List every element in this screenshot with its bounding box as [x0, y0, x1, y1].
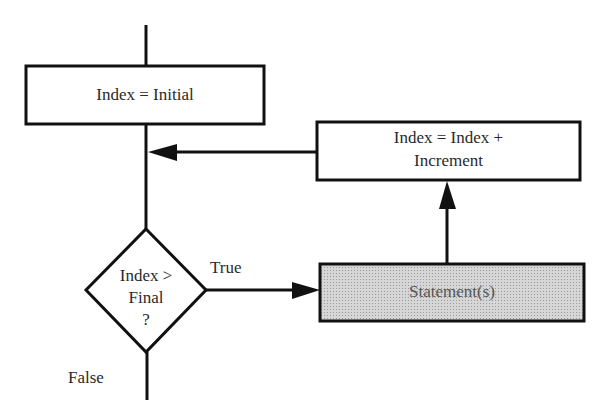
init-box-label: Index = Initial: [26, 85, 264, 105]
statement-box-label: Statement(s): [320, 282, 584, 302]
increment-label-line-1: Index = Index +: [317, 128, 580, 148]
flowchart-canvas: [0, 0, 603, 418]
decision-label-line-2: Final: [96, 288, 196, 308]
increment-label-line-2: Increment: [317, 151, 580, 171]
false-label: False: [68, 368, 104, 388]
true-arrowhead-icon: [292, 282, 320, 299]
decision-label-line-1: Index >: [96, 266, 196, 286]
decision-label-line-3: ?: [96, 310, 196, 330]
up-arrowhead-icon: [439, 181, 456, 209]
true-label: True: [210, 258, 242, 278]
return-arrowhead-icon: [148, 144, 177, 161]
